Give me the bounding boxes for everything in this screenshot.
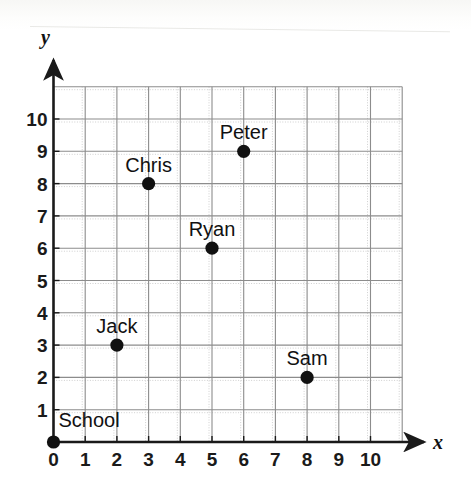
y-tick-label-4: 4 <box>37 303 48 322</box>
x-tick-label-2: 2 <box>112 450 123 469</box>
y-tick-label-9: 9 <box>37 142 48 161</box>
data-point-chris <box>142 177 155 190</box>
data-point-jack <box>110 339 123 352</box>
data-point-ryan <box>205 242 218 255</box>
point-label-ryan: Ryan <box>189 219 236 239</box>
x-tick-label-3: 3 <box>143 450 154 469</box>
data-point-school <box>47 435 60 448</box>
x-tick-label-7: 7 <box>270 450 281 469</box>
point-label-chris: Chris <box>125 155 172 175</box>
point-label-school: School <box>59 410 120 430</box>
x-tick-label-9: 9 <box>334 450 345 469</box>
y-tick-label-1: 1 <box>37 400 48 419</box>
x-tick-label-4: 4 <box>175 450 186 469</box>
x-tick-label-0: 0 <box>48 450 59 469</box>
x-tick-label-5: 5 <box>207 450 218 469</box>
y-axis-name: y <box>41 27 50 47</box>
x-axis-name: x <box>433 432 443 452</box>
y-tick-label-5: 5 <box>37 271 48 290</box>
x-tick-label-8: 8 <box>302 450 313 469</box>
y-tick-label-10: 10 <box>26 110 47 129</box>
point-label-peter: Peter <box>220 122 268 142</box>
y-tick-label-7: 7 <box>37 206 48 225</box>
figure-canvas: 012345678910 12345678910 SchoolJackChris… <box>0 0 471 481</box>
y-tick-label-8: 8 <box>37 174 48 193</box>
x-tick-label-10: 10 <box>360 450 381 469</box>
data-point-peter <box>237 145 250 158</box>
x-tick-label-1: 1 <box>80 450 91 469</box>
y-tick-label-6: 6 <box>37 239 48 258</box>
y-tick-label-2: 2 <box>37 368 48 387</box>
point-label-jack: Jack <box>96 316 137 336</box>
point-label-sam: Sam <box>287 348 328 368</box>
y-tick-label-3: 3 <box>37 336 48 355</box>
x-tick-label-6: 6 <box>238 450 249 469</box>
data-point-sam <box>301 371 314 384</box>
